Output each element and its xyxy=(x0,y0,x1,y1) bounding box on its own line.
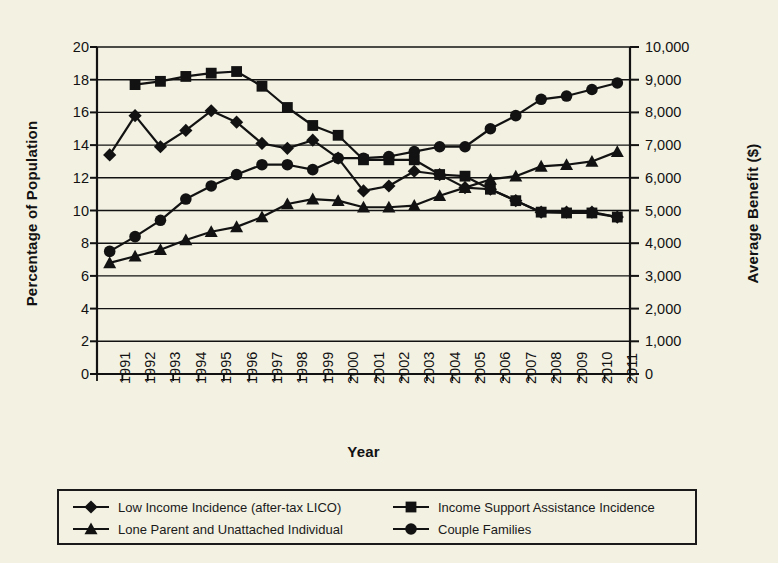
legend-marker-circle-icon xyxy=(391,521,431,537)
plot-area xyxy=(0,0,778,563)
legend-label: Low Income Incidence (after-tax LICO) xyxy=(118,501,341,514)
data-point-square xyxy=(460,171,471,182)
legend-marker-triangle-icon xyxy=(71,521,111,537)
legend-marker xyxy=(406,502,417,513)
data-point-circle xyxy=(586,84,598,96)
data-point-square xyxy=(333,130,344,141)
data-point-diamond xyxy=(281,142,294,155)
data-point-triangle xyxy=(611,145,624,157)
data-point-circle xyxy=(561,90,573,102)
legend-label: Income Support Assistance Incidence xyxy=(438,501,655,514)
legend-marker xyxy=(84,500,97,513)
data-point-circle xyxy=(358,152,370,164)
data-point-square xyxy=(231,66,242,77)
legend-item[interactable]: Income Support Assistance Incidence xyxy=(391,499,655,515)
data-point-circle xyxy=(459,141,471,153)
data-point-diamond xyxy=(103,148,116,161)
data-point-circle xyxy=(231,169,243,181)
legend-label: Lone Parent and Unattached Individual xyxy=(118,523,343,536)
legend-marker-diamond-icon xyxy=(71,499,111,515)
data-point-circle xyxy=(434,141,446,153)
data-point-square xyxy=(612,212,623,223)
legend-label: Couple Families xyxy=(438,523,531,536)
series-line xyxy=(135,72,617,218)
data-point-circle xyxy=(307,164,319,176)
data-point-square xyxy=(510,195,521,206)
legend-marker-square-icon xyxy=(391,499,431,515)
data-point-diamond xyxy=(382,179,395,192)
data-point-square xyxy=(587,208,598,219)
legend-marker xyxy=(405,523,417,535)
data-point-square xyxy=(180,71,191,82)
data-point-diamond xyxy=(408,165,421,178)
data-point-circle xyxy=(256,159,268,171)
chart-legend: Low Income Incidence (after-tax LICO)Inc… xyxy=(57,489,697,545)
data-point-circle xyxy=(612,77,624,89)
data-point-square xyxy=(307,120,318,131)
data-point-circle xyxy=(129,231,141,243)
data-point-circle xyxy=(535,94,547,106)
legend-item[interactable]: Lone Parent and Unattached Individual xyxy=(71,521,343,537)
data-point-circle xyxy=(383,151,395,163)
data-point-square xyxy=(282,102,293,113)
data-point-circle xyxy=(408,146,420,158)
data-point-circle xyxy=(510,110,522,122)
data-point-circle xyxy=(485,123,497,135)
data-point-square xyxy=(155,76,166,87)
data-point-square xyxy=(206,68,217,79)
data-point-square xyxy=(561,208,572,219)
data-point-square xyxy=(434,169,445,180)
data-point-square xyxy=(485,184,496,195)
data-point-square xyxy=(536,207,547,218)
data-point-circle xyxy=(205,180,217,192)
legend-item[interactable]: Low Income Incidence (after-tax LICO) xyxy=(71,499,341,515)
data-point-circle xyxy=(104,246,116,258)
data-point-circle xyxy=(282,159,294,171)
data-point-circle xyxy=(332,152,344,164)
data-point-square xyxy=(257,81,268,92)
data-point-square xyxy=(130,79,141,90)
series-2 xyxy=(130,66,623,222)
chart-container: Percentage of Population Average Benefit… xyxy=(0,0,778,563)
data-point-circle xyxy=(155,215,167,227)
data-point-triangle xyxy=(255,211,268,223)
data-point-circle xyxy=(180,193,192,205)
legend-item[interactable]: Couple Families xyxy=(391,521,531,537)
